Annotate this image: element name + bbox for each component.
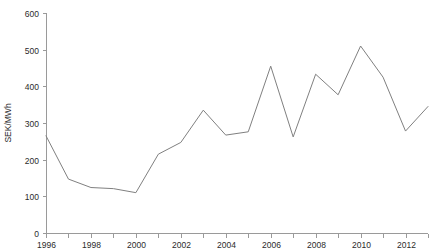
x-tick-label: 2008	[307, 240, 326, 250]
line-chart: 0100200300400500600 19961998200020022004…	[0, 0, 434, 252]
series-line	[46, 46, 428, 193]
x-tick-label: 2000	[127, 240, 146, 250]
x-tick-label: 2004	[217, 240, 236, 250]
y-tick-label: 300	[25, 119, 39, 129]
y-tick-label: 0	[34, 229, 39, 239]
y-axis-title-text: SEK/MWh	[3, 103, 13, 142]
x-axis: 199619982000200220042006200820102012	[37, 234, 428, 251]
x-tick-label: 2002	[172, 240, 191, 250]
y-axis-title: SEK/MWh	[3, 103, 13, 142]
y-tick-label: 600	[25, 9, 39, 19]
y-tick-label: 200	[25, 156, 39, 166]
x-tick-label: 2010	[352, 240, 371, 250]
x-tick-label: 2012	[397, 240, 416, 250]
x-tick-label: 1996	[37, 240, 56, 250]
chart-canvas: 0100200300400500600 19961998200020022004…	[0, 0, 434, 252]
x-tick-label: 2006	[262, 240, 281, 250]
x-tick-label: 1998	[82, 240, 101, 250]
y-tick-label: 400	[25, 82, 39, 92]
data-series	[46, 46, 428, 193]
y-tick-label: 100	[25, 192, 39, 202]
y-axis: 0100200300400500600	[25, 9, 47, 239]
y-tick-label: 500	[25, 46, 39, 56]
